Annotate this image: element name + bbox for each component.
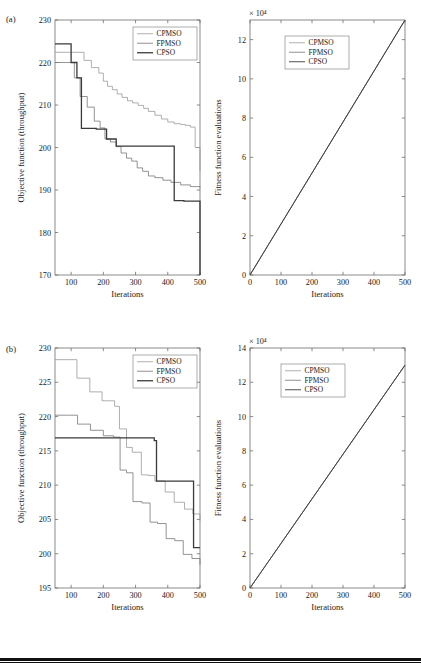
x-axis-title: Iterations: [311, 602, 344, 612]
panel-a-svg: (a)100200300400500170180190200210220230I…: [0, 0, 421, 330]
panel-tag: (a): [6, 14, 16, 24]
y-tick-label: 0: [242, 584, 246, 593]
panel-tag: (b): [6, 344, 16, 354]
legend-label-cpso: CPSO: [157, 48, 176, 57]
legend-a-left: CPMSOFPMSOCPSO: [133, 27, 197, 60]
y-tick-label: 230: [39, 16, 51, 25]
legend-label-cpmso: CPMSO: [157, 357, 183, 366]
legend-a-right: CPMSOFPMSOCPSO: [285, 36, 349, 69]
y-tick-label: 225: [39, 378, 51, 387]
y-tick-label: 10: [238, 413, 246, 422]
x-tick-label: 500: [399, 591, 411, 600]
legend-label-cpso: CPSO: [157, 376, 176, 385]
x-tick-label: 200: [97, 278, 109, 287]
y-tick-label: 12: [238, 36, 246, 45]
y-axis-title: Objective function (throughput): [16, 413, 26, 523]
y-tick-label: 180: [39, 229, 51, 238]
legend-label-fpmso: FPMSO: [157, 367, 182, 376]
panel-b: (b)1002003004005001952002052102152202252…: [0, 330, 421, 640]
x-axis-title: Iterations: [111, 289, 144, 299]
legend-label-fpmso: FPMSO: [157, 39, 182, 48]
y-axis-title: Fitness function evaluations: [213, 99, 223, 196]
y-tick-label: 210: [39, 101, 51, 110]
x-tick-label: 300: [337, 278, 349, 287]
y-tick-label: 200: [39, 550, 51, 559]
x-axis-title: Iterations: [311, 289, 344, 299]
panel-b-svg: (b)1002003004005001952002052102152202252…: [0, 330, 421, 640]
series-cpso: [250, 365, 405, 588]
x-tick-label: 500: [194, 591, 206, 600]
y-tick-label: 6: [242, 153, 246, 162]
x-tick-label: 400: [368, 591, 380, 600]
axes-b-left: 100200300400500195200205210215220225230I…: [16, 344, 206, 612]
y-tick-label: 230: [39, 344, 51, 353]
x-tick-label: 500: [194, 278, 206, 287]
x-tick-label: 300: [129, 278, 141, 287]
y-exponent-label: × 10⁴: [249, 337, 267, 346]
y-tick-label: 2: [242, 232, 246, 241]
y-tick-label: 195: [39, 584, 51, 593]
y-tick-label: 170: [39, 271, 51, 280]
x-tick-label: 100: [275, 278, 287, 287]
legend-label-cpmso: CPMSO: [305, 366, 331, 375]
series-cpso: [55, 44, 200, 275]
figure-container: (a)100200300400500170180190200210220230I…: [0, 0, 421, 671]
y-tick-label: 0: [242, 271, 246, 280]
y-tick-label: 2: [242, 550, 246, 559]
legend-label-cpmso: CPMSO: [309, 38, 335, 47]
legend-b-right: CPMSOFPMSOCPSO: [281, 364, 345, 397]
x-tick-label: 0: [248, 278, 252, 287]
footer-rule-thin: [0, 662, 421, 663]
panel-a: (a)100200300400500170180190200210220230I…: [0, 0, 421, 330]
y-tick-label: 205: [39, 515, 51, 524]
y-tick-label: 210: [39, 481, 51, 490]
x-tick-label: 400: [368, 278, 380, 287]
y-axis-title: Fitness function evaluations: [213, 419, 223, 516]
x-tick-label: 100: [65, 591, 77, 600]
axes-b-right: 010020030040050002468101214× 10⁴Iteratio…: [213, 337, 411, 612]
x-tick-label: 400: [162, 591, 174, 600]
x-tick-label: 200: [306, 591, 318, 600]
y-exponent-label: × 10⁴: [249, 9, 267, 18]
y-tick-label: 220: [39, 413, 51, 422]
legend-label-cpso: CPSO: [309, 57, 328, 66]
x-tick-label: 400: [162, 278, 174, 287]
legend-label-fpmso: FPMSO: [309, 48, 334, 57]
x-tick-label: 0: [248, 591, 252, 600]
y-axis-title: Objective function (throughput): [16, 92, 26, 202]
y-tick-label: 4: [242, 515, 246, 524]
y-tick-label: 8: [242, 114, 246, 123]
y-tick-label: 8: [242, 447, 246, 456]
x-tick-label: 100: [275, 591, 287, 600]
axes-a-left: 100200300400500170180190200210220230Iter…: [16, 16, 206, 299]
series-fpmso: [55, 63, 200, 188]
legend-label-fpmso: FPMSO: [305, 376, 330, 385]
x-tick-label: 200: [306, 278, 318, 287]
x-tick-label: 300: [337, 591, 349, 600]
footer-rule-thick: [0, 658, 421, 661]
y-tick-label: 190: [39, 186, 51, 195]
legend-b-left: CPMSOFPMSOCPSO: [133, 355, 197, 388]
y-tick-label: 220: [39, 59, 51, 68]
series-cpso: [55, 438, 200, 548]
y-tick-label: 200: [39, 144, 51, 153]
x-tick-label: 200: [97, 591, 109, 600]
y-tick-label: 12: [238, 378, 246, 387]
x-tick-label: 100: [65, 278, 77, 287]
y-tick-label: 10: [238, 75, 246, 84]
legend-label-cpso: CPSO: [305, 385, 324, 394]
y-tick-label: 215: [39, 447, 51, 456]
legend-label-cpmso: CPMSO: [157, 29, 183, 38]
x-axis-title: Iterations: [111, 602, 144, 612]
x-tick-label: 300: [129, 591, 141, 600]
y-tick-label: 14: [238, 344, 246, 353]
axes-a-right: 0100200300400500024681012× 10⁴Iterations…: [213, 9, 411, 299]
y-tick-label: 6: [242, 481, 246, 490]
x-tick-label: 500: [399, 278, 411, 287]
y-tick-label: 4: [242, 193, 246, 202]
